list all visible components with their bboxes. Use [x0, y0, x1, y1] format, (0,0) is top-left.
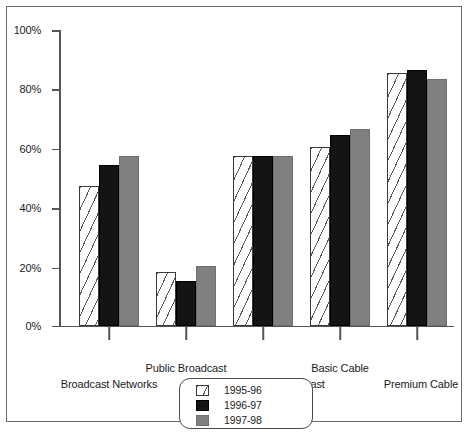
legend-swatch-icon	[196, 415, 209, 426]
y-tick-label-20: 20%	[20, 262, 41, 274]
bar-group	[233, 29, 293, 326]
bar-1997-98-Premium Cable	[427, 79, 447, 326]
bar-group	[310, 29, 370, 326]
category-label-public-broadcast: Public Broadcast	[146, 362, 227, 374]
bar-1995-96-Broadcast Networks	[79, 186, 99, 326]
bar-1997-98-Broadcast Networks	[119, 156, 139, 325]
bar-group	[156, 29, 216, 326]
category-label-broadcast-networks: Broadcast Networks	[61, 378, 158, 390]
y-tick-label-80: 80%	[20, 83, 41, 95]
bar-1996-97-Premium Cable	[407, 70, 427, 325]
category-label-premium-cable: Premium Cable	[384, 378, 459, 390]
x-tick-1	[185, 327, 187, 340]
x-tick-2	[262, 327, 264, 340]
bar-1997-98-Basic Cable	[350, 129, 370, 325]
y-tick-label-60: 60%	[20, 143, 41, 155]
y-tick-60: 60%	[52, 149, 59, 151]
legend-swatch-icon	[196, 400, 209, 411]
bar-1995-96-Basic Cable	[310, 147, 330, 325]
bar-1995-96-Independent Broadcast	[233, 156, 253, 325]
bar-1997-98-Independent Broadcast	[273, 156, 293, 325]
y-tick-100: 100%	[52, 30, 59, 32]
bar-group	[79, 29, 139, 326]
bar-group	[387, 29, 447, 326]
y-tick-label-100: 100%	[14, 24, 41, 36]
y-tick-20: 20%	[52, 268, 59, 270]
legend-swatch-icon	[196, 385, 209, 396]
x-tick-4	[416, 327, 418, 340]
x-tick-3	[339, 327, 341, 340]
bar-1995-96-Public Broadcast	[156, 272, 176, 325]
legend-label: 1997-98	[224, 414, 262, 426]
x-axis-line	[59, 326, 454, 328]
y-tick-label-0: 0%	[26, 320, 42, 332]
bar-1996-97-Broadcast Networks	[99, 165, 119, 325]
category-label-basic-cable: Basic Cable	[311, 362, 369, 374]
bar-1995-96-Premium Cable	[387, 73, 407, 325]
y-tick-label-40: 40%	[20, 202, 41, 214]
bar-1996-97-Independent Broadcast	[253, 156, 273, 325]
legend-label: 1995-96	[224, 384, 262, 396]
legend-item-1996-97: 1996-97	[196, 398, 312, 412]
y-tick-0: 0%	[52, 326, 59, 328]
bar-1996-97-Public Broadcast	[176, 281, 196, 326]
chart-frame: 100% 80% 60% 40% 20% 0% Broadcast Networ…	[6, 6, 462, 422]
legend-item-1995-96: 1995-96	[196, 383, 312, 397]
legend-label: 1996-97	[224, 399, 262, 411]
legend-item-1997-98: 1997-98	[196, 413, 312, 427]
bar-1996-97-Basic Cable	[330, 135, 350, 325]
y-axis-line	[59, 30, 61, 327]
bar-1997-98-Public Broadcast	[196, 266, 216, 325]
y-tick-40: 40%	[52, 208, 59, 210]
legend: 1995-96 1996-97 1997-98	[179, 378, 313, 429]
y-tick-80: 80%	[52, 89, 59, 91]
x-tick-0	[108, 327, 110, 340]
plot-area: 100% 80% 60% 40% 20% 0% Broadcast Networ…	[59, 30, 454, 327]
